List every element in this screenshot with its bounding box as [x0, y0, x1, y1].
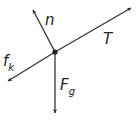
force-vector-T [55, 8, 131, 52]
free-body-diagram: nTfkFg [0, 0, 138, 120]
force-label-T: T [103, 30, 114, 48]
force-label-n: n [45, 11, 55, 29]
point-mass [52, 49, 57, 54]
force-label-fk: fk [3, 52, 15, 73]
force-label-Fg: Fg [60, 76, 75, 97]
force-vector-fk [8, 52, 55, 81]
